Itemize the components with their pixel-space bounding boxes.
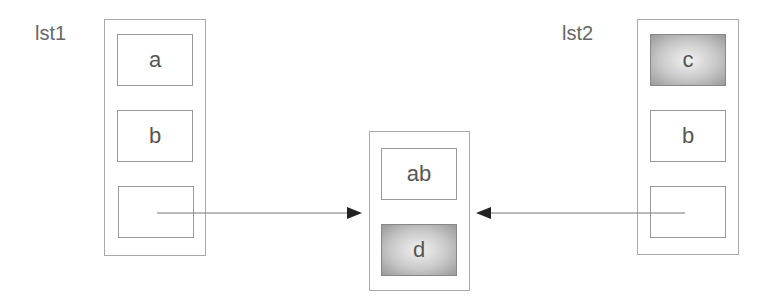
arrow-lst1-to-result (157, 207, 362, 219)
arrowhead-right-icon (347, 207, 362, 219)
arrows-layer (0, 0, 773, 303)
arrow-lst2-to-result (476, 207, 685, 219)
arrowhead-left-icon (476, 207, 491, 219)
